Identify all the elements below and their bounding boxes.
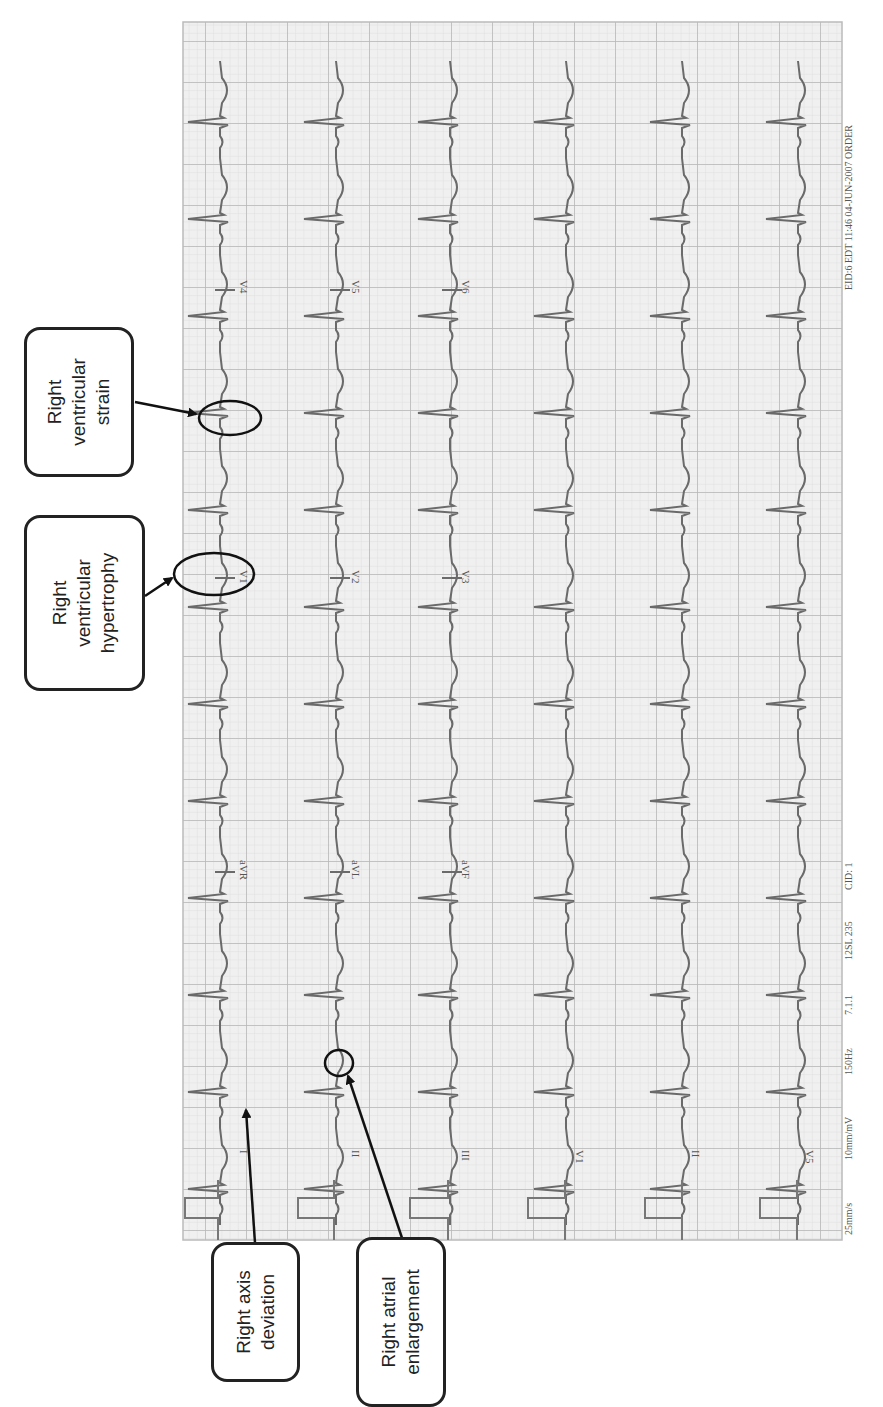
lead-label: II: [350, 1150, 362, 1158]
misc-text: 12SL 235: [843, 921, 854, 960]
callout-rv-strain-text: Right ventricular strain: [43, 358, 115, 446]
lead-label: V3: [460, 570, 472, 584]
speed-text: 25mm/s: [843, 1203, 854, 1235]
lead-label: II: [690, 1150, 702, 1158]
lead-label: V2: [350, 570, 362, 583]
ecg-grid: [183, 22, 842, 1240]
gain-text: 10mm/mV: [843, 1116, 854, 1160]
filter-text: 150Hz: [843, 1048, 854, 1075]
callout-rae: Right atrial enlargement: [356, 1237, 446, 1407]
lead-label: V1: [238, 570, 250, 583]
lead-label: V4: [238, 280, 250, 294]
callout-rv-strain: Right ventricular strain: [24, 327, 134, 477]
lead-label: III: [460, 1150, 472, 1161]
callout-rvh-text: Right ventricular hypertrophy: [49, 553, 121, 653]
callout-rae-text: Right atrial enlargement: [377, 1269, 425, 1375]
device-text: EID:6 EDT 11:46 04-JUN-2007 ORDER: [843, 125, 854, 290]
rvh-arrow: [145, 578, 172, 596]
callout-rad-text: Right axis deviation: [232, 1270, 280, 1353]
lead-label: V6: [460, 280, 472, 294]
lead-label: V5: [350, 280, 362, 294]
callout-rvh: Right ventricular hypertrophy: [24, 515, 145, 691]
callout-rad: Right axis deviation: [211, 1242, 300, 1382]
cid-text: CID: 1: [843, 863, 854, 891]
lead-label: V5: [804, 1150, 816, 1164]
ecg-footer: 25mm/s 10mm/mV 150Hz 7.1.1 12SL 235 CID:…: [843, 125, 854, 1235]
lead-label: aVR: [238, 860, 250, 881]
lead-label: V1: [574, 1150, 586, 1163]
lead-label: aVL: [350, 860, 362, 880]
lead-label: aVF: [460, 860, 472, 879]
version-text: 7.1.1: [843, 995, 854, 1015]
